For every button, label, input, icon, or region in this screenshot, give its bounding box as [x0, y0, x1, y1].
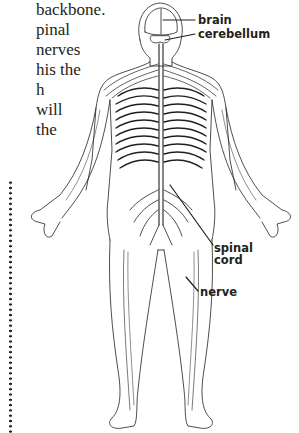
lumbar-nerves — [130, 190, 192, 245]
head-outline — [139, 3, 183, 66]
label-spinal-cord-line2: cord — [214, 254, 243, 266]
leader-lines — [163, 20, 213, 291]
label-cerebellum: cerebellum — [198, 28, 270, 40]
nervous-system-figure — [0, 0, 299, 433]
label-nerve: nerve — [200, 286, 237, 298]
legs — [109, 240, 212, 428]
rib-nerves — [116, 88, 206, 168]
shoulder-nerves — [104, 64, 218, 98]
spinal-cord — [159, 44, 163, 225]
label-brain: brain — [198, 14, 232, 26]
nerve-leader — [186, 277, 198, 291]
torso-outline — [86, 62, 236, 240]
spinal-cord-leader — [170, 185, 213, 245]
arms — [31, 100, 290, 237]
